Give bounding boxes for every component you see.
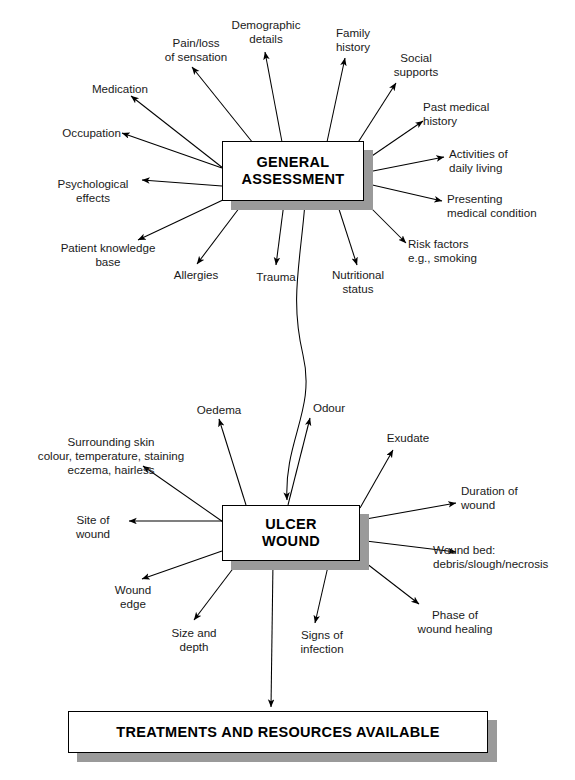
label-activities-daily-living: Activities of daily living <box>449 147 553 175</box>
connector-patient-knowledge-base <box>138 199 225 240</box>
connector-signs-of-infection <box>315 562 329 623</box>
label-patient-knowledge-base: Patient knowledge base <box>48 241 168 269</box>
connector-demographic-details <box>265 52 282 142</box>
label-allergies: Allergies <box>160 268 232 282</box>
label-trauma: Trauma <box>245 270 307 284</box>
label-wound-bed: Wound bed: debris/slough/necrosis <box>433 543 575 571</box>
connector-activities-daily-living <box>368 157 444 172</box>
connector-ulcer-to-treatments <box>271 562 273 707</box>
label-presenting-condition: Presenting medical condition <box>447 192 571 220</box>
connector-nutritional-status <box>337 203 357 265</box>
label-odour: Odour <box>302 401 356 415</box>
label-wound-edge: Wound edge <box>100 583 166 611</box>
node-general-assessment[interactable]: GENERAL ASSESSMENT <box>222 141 364 201</box>
label-exudate: Exudate <box>377 431 439 445</box>
label-size-and-depth: Size and depth <box>155 626 233 654</box>
label-site-of-wound: Site of wound <box>60 513 126 541</box>
connector-pain-loss-sensation <box>192 67 253 143</box>
connector-psychological-effects <box>142 180 222 186</box>
connector-phase-of-wound-healing <box>362 560 419 604</box>
connector-odour <box>288 418 310 505</box>
connector-allergies <box>197 203 243 264</box>
connector-duration-of-wound <box>366 503 456 519</box>
node-ulcer-wound[interactable]: ULCER WOUND <box>222 505 360 561</box>
connector-presenting-condition <box>368 184 442 201</box>
connector-social-supports <box>357 83 396 144</box>
connector-past-medical-history <box>366 121 423 160</box>
label-duration-of-wound: Duration of wound <box>461 484 557 512</box>
label-oedema: Oedema <box>188 403 250 417</box>
connector-wound-edge <box>142 551 222 579</box>
label-risk-factors: Risk factors e.g., smoking <box>408 237 520 265</box>
label-occupation: Occupation <box>53 126 121 140</box>
label-social-supports: Social supports <box>377 51 455 79</box>
label-signs-of-infection: Signs of infection <box>283 628 361 656</box>
connector-medication <box>131 96 228 172</box>
label-phase-of-wound-healing: Phase of wound healing <box>400 608 510 636</box>
connector-trauma <box>276 203 284 265</box>
label-past-medical-history: Past medical history <box>423 100 527 128</box>
label-medication: Medication <box>78 82 148 96</box>
label-demographic-details: Demographic details <box>210 18 322 46</box>
connector-oedema <box>219 419 246 505</box>
label-surrounding-skin: Surrounding skin colour, temperature, st… <box>21 435 201 477</box>
connector-family-history <box>327 58 345 142</box>
connector-exudate <box>360 450 393 508</box>
connector-occupation <box>122 133 222 168</box>
connector-general-to-ulcer <box>287 203 306 500</box>
node-treatments-and-resources[interactable]: TREATMENTS AND RESOURCES AVAILABLE <box>68 711 488 753</box>
label-psychological-effects: Psychological effects <box>46 177 140 205</box>
label-nutritional-status: Nutritional status <box>322 268 394 296</box>
diagram-canvas: GENERAL ASSESSMENT ULCER WOUND TREATMENT… <box>0 0 575 780</box>
connector-size-and-depth <box>194 562 238 620</box>
